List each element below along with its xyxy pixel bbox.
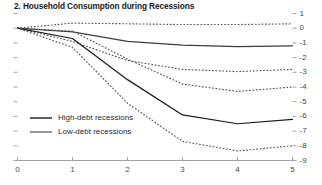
- y-tick-label: -2: [300, 54, 320, 62]
- chart-line-1: [18, 23, 293, 28]
- y-tick-label: -9: [300, 157, 320, 165]
- chart-legend-marks: [30, 118, 52, 132]
- y-tick-label: 0: [300, 24, 320, 32]
- y-tick-label: -6: [300, 112, 320, 120]
- chart-figure: 2. Household Consumption during Recessio…: [0, 0, 322, 185]
- legend-label: Low-debt recessions: [58, 127, 131, 136]
- x-tick-label: 2: [118, 166, 138, 174]
- y-tick-label: 1: [300, 10, 320, 18]
- y-tick-label: -5: [300, 98, 320, 106]
- y-tick-label: -3: [300, 68, 320, 76]
- chart-line-4: [18, 28, 293, 91]
- y-tick-label: -7: [300, 127, 320, 135]
- x-tick-label: 1: [63, 166, 83, 174]
- y-tick-label: -1: [300, 39, 320, 47]
- x-tick-label: 0: [8, 166, 28, 174]
- chart-line-2: [18, 28, 293, 71]
- y-tick-label: -4: [300, 83, 320, 91]
- legend-label: High-debt recessions: [58, 113, 133, 122]
- x-tick-label: 3: [173, 166, 193, 174]
- chart-plot-area: [0, 0, 322, 185]
- x-tick-label: 4: [228, 166, 248, 174]
- x-tick-label: 5: [283, 166, 303, 174]
- y-tick-label: -8: [300, 142, 320, 150]
